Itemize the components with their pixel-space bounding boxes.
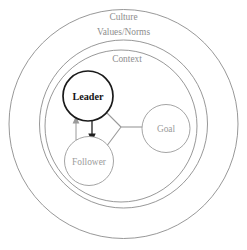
node-leader-label: Leader	[72, 91, 104, 102]
ring-culture-circle	[9, 10, 238, 239]
node-follower-label: Follower	[72, 157, 107, 167]
node-goal-label: Goal	[157, 124, 176, 134]
connector-leader-to-junction	[107, 113, 121, 127]
ring-label-culture: Culture	[109, 12, 137, 22]
leadership-context-diagram: Culture Values/Norms Context Goal Follow…	[0, 0, 247, 250]
ring-label-context: Context	[112, 54, 142, 64]
connector-follower-to-junction	[106, 127, 121, 147]
diagram-canvas: Culture Values/Norms Context Goal Follow…	[0, 0, 247, 250]
ring-label-values-norms: Values/Norms	[97, 27, 150, 37]
